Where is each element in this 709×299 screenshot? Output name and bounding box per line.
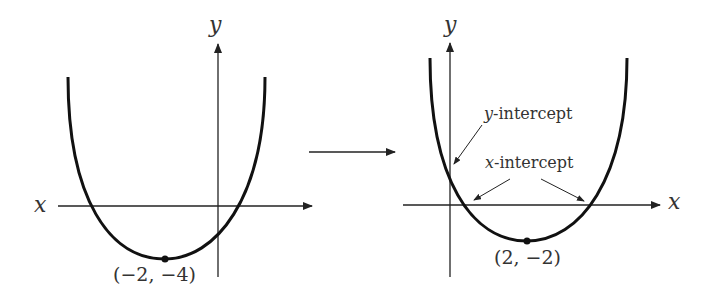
left-vertex-label: (−2, −4): [113, 265, 196, 284]
y-intercept-var: y: [484, 104, 493, 123]
right-parabola: [430, 58, 627, 241]
x-intercept-label: x-intercept: [485, 155, 574, 171]
x-intercept-var: x: [485, 153, 494, 172]
right-y-axis-label: y: [444, 14, 456, 36]
x-intercept-pointer-left: [474, 179, 510, 200]
left-graph: [58, 44, 312, 277]
right-x-axis-label: x: [668, 191, 680, 213]
x-intercept-pointer-right: [541, 179, 584, 201]
right-vertex-label: (2, −2): [494, 248, 561, 267]
right-vertex-point: [524, 238, 531, 245]
diagram: y x (−2, −4) y x (2, −2) y-intercept x-i…: [0, 0, 709, 299]
graphs-canvas: [0, 0, 709, 299]
left-y-axis-label: y: [209, 14, 221, 36]
y-intercept-label: y-intercept: [484, 106, 573, 122]
x-intercept-suffix: -intercept: [494, 153, 573, 172]
left-parabola: [68, 77, 265, 259]
y-intercept-pointer: [454, 125, 482, 164]
left-x-axis-label: x: [34, 194, 46, 216]
y-intercept-suffix: -intercept: [493, 104, 572, 123]
left-vertex-point: [162, 256, 169, 263]
